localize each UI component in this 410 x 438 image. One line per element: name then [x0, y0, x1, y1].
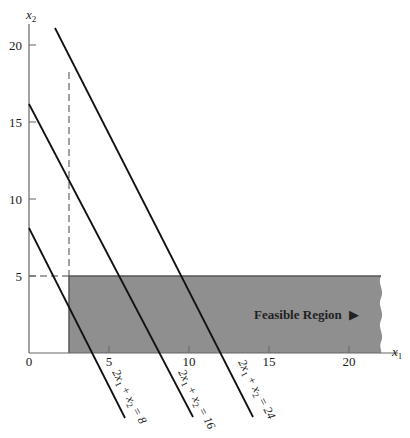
- constraint-line-16: [29, 104, 193, 417]
- y-tick-label-10: 10: [9, 192, 22, 207]
- right-arrow-icon: ▶: [349, 307, 359, 322]
- feasible-region-label: Feasible Region ▶: [254, 307, 359, 322]
- x-tick-label-15: 15: [263, 354, 276, 369]
- y-tick-label-5: 5: [16, 269, 23, 284]
- feasible-region-diagram: 5 10 15 20 0 5 10 15 20 x2 x1 2x1 + x2 =…: [0, 0, 410, 438]
- constraint-line-24: [55, 28, 253, 417]
- y-tick-label-20: 20: [9, 38, 22, 53]
- y-tick-label-15: 15: [9, 115, 22, 130]
- y-axis-label: x2: [25, 7, 36, 24]
- x-tick-label-10: 10: [183, 354, 196, 369]
- x-axis-label: x1: [391, 344, 402, 361]
- x-tick-label-20: 20: [343, 354, 356, 369]
- x-tick-label-0: 0: [26, 354, 33, 369]
- constraint-label-16: 2x1 + x2 = 16: [174, 367, 219, 433]
- x-tick-label-5: 5: [106, 354, 113, 369]
